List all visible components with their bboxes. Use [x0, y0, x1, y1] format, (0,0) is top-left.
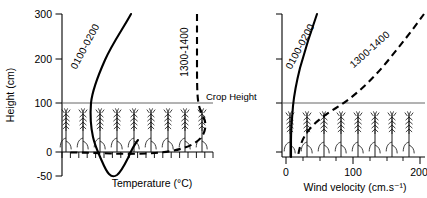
temperature-x-axis-label: Temperature (°C) — [112, 177, 193, 189]
wheat-plant — [284, 111, 295, 157]
curve-wind-day — [298, 14, 424, 157]
wind-velocity-panel: 0 100 200 — [276, 14, 427, 193]
y-tick-label-100: 100 — [34, 97, 52, 109]
curve-label-temperature-day: 1300-1400 — [179, 27, 190, 77]
wind-x-tick-label-100: 100 — [344, 166, 362, 178]
wind-x-tick-label-200: 200 — [410, 166, 427, 178]
wheat-plant — [111, 108, 122, 152]
wheat-plant — [369, 111, 380, 157]
temperature-panel: 0100-0200 1300-1400 Temperature (°C) — [60, 14, 213, 189]
wind-x-axis-label: Wind velocity (cm.s⁻¹) — [304, 181, 407, 193]
y-axis: 300 200 100 0 -50 Height (cm) — [4, 8, 62, 182]
wheat-plant — [335, 111, 346, 157]
y-tick-label-200: 200 — [34, 53, 52, 65]
wheat-plant — [386, 111, 397, 157]
wheat-plant — [301, 111, 312, 157]
crop-height-label: Crop Height — [206, 91, 257, 102]
wheat-plant — [403, 111, 414, 157]
crop-canopy-wind — [284, 111, 414, 157]
wheat-plant — [352, 111, 363, 157]
y-tick-label-minus50: -50 — [37, 170, 52, 182]
figure-canvas: 300 200 100 0 -50 Height (cm) — [0, 0, 427, 198]
wheat-plant — [145, 108, 156, 152]
y-tick-label-0: 0 — [46, 146, 52, 158]
wheat-plant — [162, 108, 173, 152]
wind-x-ticks — [286, 157, 420, 164]
wheat-plant — [77, 108, 88, 152]
y-tick-label-300: 300 — [34, 8, 52, 20]
curve-label-temperature-night: 0100-0200 — [68, 22, 101, 71]
figure-root: 300 200 100 0 -50 Height (cm) — [0, 0, 427, 198]
curve-label-wind-night: 0100-0200 — [283, 22, 316, 71]
wheat-plant — [318, 111, 329, 157]
wind-x-tick-label-0: 0 — [283, 166, 289, 178]
y-axis-label: Height (cm) — [4, 68, 16, 122]
